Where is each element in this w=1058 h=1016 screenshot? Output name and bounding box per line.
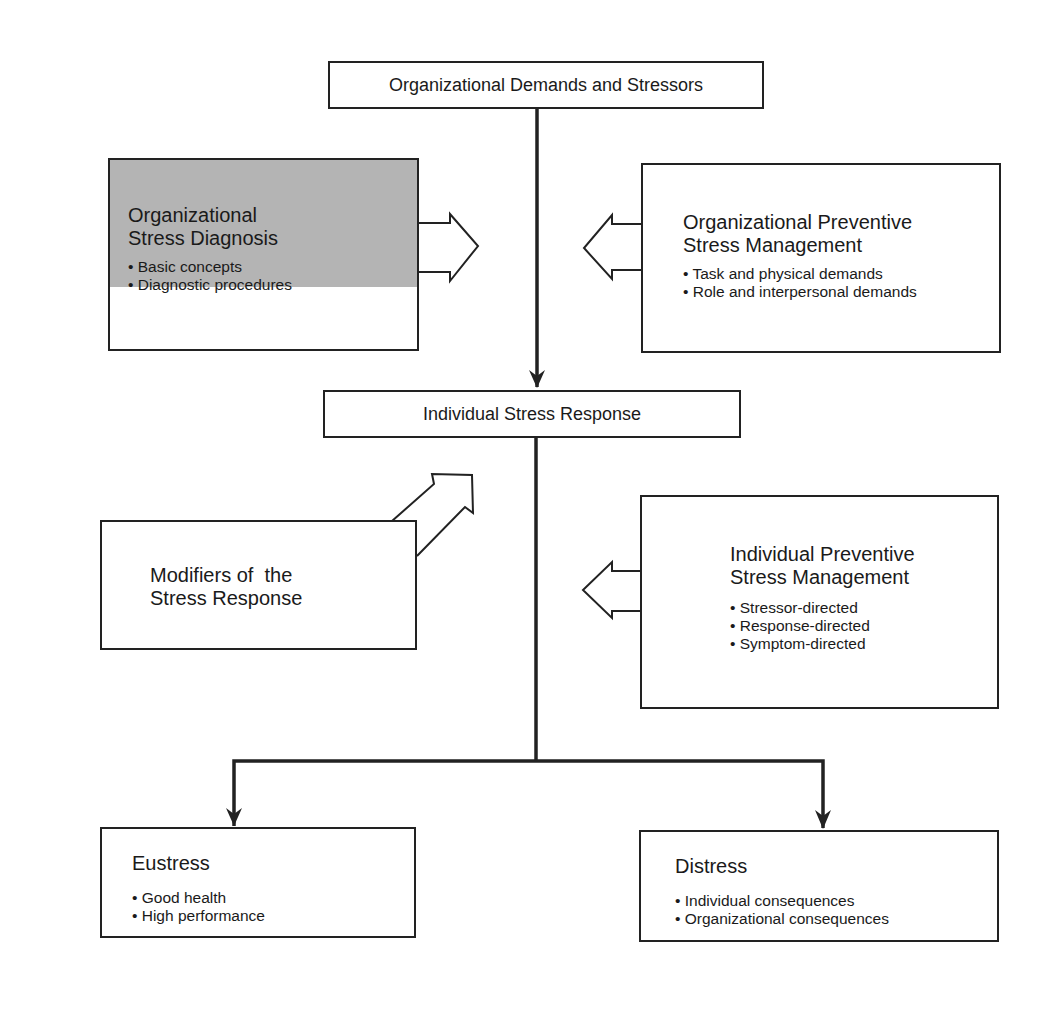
node-org-preventive-management: Organizational Preventive Stress Managem… xyxy=(641,163,1001,353)
node-individual-preventive-management: Individual Preventive Stress Management … xyxy=(640,495,999,709)
bullet-list: Individual consequences Organizational c… xyxy=(675,892,889,928)
node-title: Modifiers of the Stress Response xyxy=(150,564,302,610)
node-label: Organizational Demands and Stressors xyxy=(330,75,762,96)
bullet-list: Task and physical demands Role and inter… xyxy=(683,265,917,301)
flow-split-line xyxy=(234,761,823,828)
node-individual-stress-response: Individual Stress Response xyxy=(323,390,741,438)
node-title: Organizational Stress Diagnosis xyxy=(128,204,278,250)
node-label: Individual Stress Response xyxy=(325,404,739,425)
node-title: Eustress xyxy=(132,852,210,875)
bullet-list: Stressor-directed Response-directed Symp… xyxy=(730,599,870,653)
block-arrow-left-icon xyxy=(584,215,641,279)
node-title: Distress xyxy=(675,855,747,878)
node-org-stress-diagnosis: Organizational Stress Diagnosis Basic co… xyxy=(108,158,419,351)
bullet-list: Basic concepts Diagnostic procedures xyxy=(128,258,292,294)
node-distress: Distress Individual consequences Organiz… xyxy=(639,830,999,942)
block-arrow-left-icon xyxy=(583,562,640,618)
node-modifiers: Modifiers of the Stress Response xyxy=(100,520,417,650)
bullet-list: Good health High performance xyxy=(132,889,265,925)
block-arrow-right-icon xyxy=(418,214,478,281)
node-title: Individual Preventive Stress Management xyxy=(730,543,915,589)
node-organizational-demands: Organizational Demands and Stressors xyxy=(328,61,764,109)
node-title: Organizational Preventive Stress Managem… xyxy=(683,211,912,257)
node-eustress: Eustress Good health High performance xyxy=(100,827,416,938)
